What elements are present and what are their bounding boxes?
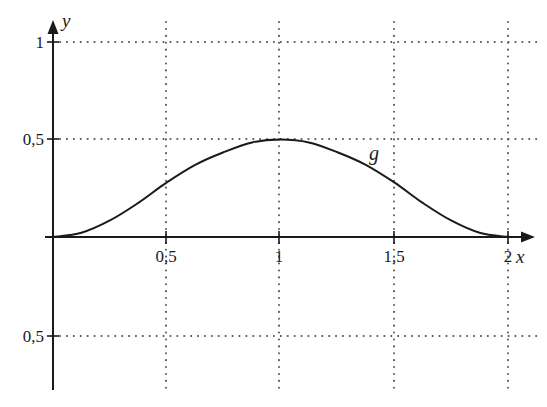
x-axis-arrow-icon xyxy=(521,232,535,243)
x-tick-label-1-5: 1,5 xyxy=(383,247,404,266)
function-graph: 0,5 1 1,5 2 1 0,5 0,5 y x g xyxy=(0,0,547,407)
curve-g xyxy=(53,140,508,238)
x-axis-label: x xyxy=(515,246,525,267)
y-tick-label-0-5: 0,5 xyxy=(23,130,44,149)
ticks xyxy=(47,42,508,336)
y-tick-label-neg-0-5: 0,5 xyxy=(23,327,44,346)
curve-label-g: g xyxy=(369,142,379,165)
y-axis-arrow-icon xyxy=(48,20,59,34)
grid-horizontal xyxy=(60,42,538,336)
x-tick-label-2: 2 xyxy=(504,247,513,266)
grid-vertical xyxy=(166,22,508,392)
x-tick-label-1: 1 xyxy=(275,247,284,266)
x-tick-label-0-5: 0,5 xyxy=(155,247,176,266)
y-tick-label-1: 1 xyxy=(36,33,45,52)
y-axis-label: y xyxy=(60,10,71,31)
